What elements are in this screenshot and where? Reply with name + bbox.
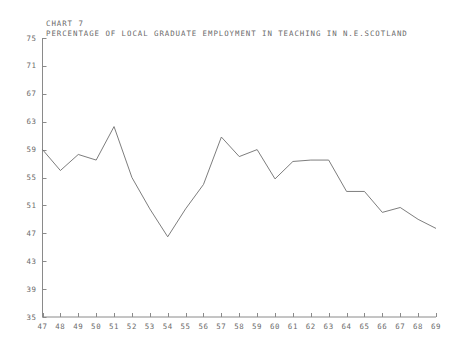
x-tick-label: 50 <box>88 322 104 331</box>
line-chart-svg <box>0 0 458 346</box>
x-axis-ticks <box>44 313 437 317</box>
x-tick-label: 57 <box>213 322 229 331</box>
y-axis-ticks <box>43 39 47 318</box>
y-tick-label: 35 <box>21 313 37 322</box>
plot-area <box>0 0 458 346</box>
y-tick-label: 43 <box>21 257 37 266</box>
x-tick-label: 69 <box>428 322 444 331</box>
y-tick-label: 63 <box>21 117 37 126</box>
x-tick-label: 58 <box>231 322 247 331</box>
x-tick-label: 60 <box>267 322 283 331</box>
x-tick-label: 62 <box>303 322 319 331</box>
x-tick-label: 53 <box>142 322 158 331</box>
x-tick-label: 51 <box>106 322 122 331</box>
x-tick-label: 59 <box>249 322 265 331</box>
x-tick-label: 49 <box>70 322 86 331</box>
y-tick-label: 67 <box>21 89 37 98</box>
x-tick-label: 68 <box>410 322 426 331</box>
x-tick-label: 63 <box>321 322 337 331</box>
x-tick-label: 65 <box>356 322 372 331</box>
x-tick-label: 56 <box>195 322 211 331</box>
x-tick-label: 64 <box>339 322 355 331</box>
chart-page: CHART 7 PERCENTAGE OF LOCAL GRADUATE EMP… <box>0 0 458 346</box>
y-tick-label: 47 <box>21 229 37 238</box>
y-tick-label: 51 <box>21 201 37 210</box>
data-series-line <box>43 127 437 237</box>
y-tick-label: 75 <box>21 34 37 43</box>
y-tick-label: 71 <box>21 61 37 70</box>
y-tick-label: 39 <box>21 285 37 294</box>
x-tick-label: 54 <box>160 322 176 331</box>
x-tick-label: 61 <box>285 322 301 331</box>
x-tick-label: 52 <box>124 322 140 331</box>
y-tick-label: 59 <box>21 145 37 154</box>
axes-group <box>43 38 437 317</box>
x-tick-label: 55 <box>178 322 194 331</box>
x-tick-label: 47 <box>35 322 51 331</box>
x-tick-label: 66 <box>374 322 390 331</box>
x-tick-label: 48 <box>52 322 68 331</box>
x-tick-label: 67 <box>392 322 408 331</box>
y-tick-label: 55 <box>21 173 37 182</box>
